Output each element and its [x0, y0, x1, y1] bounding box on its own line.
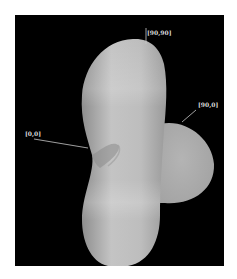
label-90-0: [90,0] — [198, 102, 218, 108]
leader-line-left — [34, 139, 88, 148]
label-0-0: [0,0] — [25, 131, 41, 137]
right-lobe — [160, 123, 214, 203]
surface-render — [15, 15, 224, 266]
render-viewport — [15, 15, 224, 266]
leader-line-right — [182, 110, 196, 122]
label-90-90: [90,90] — [147, 30, 171, 36]
